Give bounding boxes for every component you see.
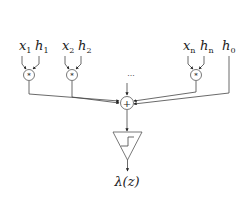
product-wire-1 — [29, 81, 119, 101]
hn-label: hn — [200, 38, 214, 55]
activation-node — [113, 132, 142, 160]
sum-symbol: + — [123, 98, 131, 109]
multiply-symbol-1: * — [27, 72, 31, 80]
multiply-symbol-n: * — [194, 72, 198, 80]
x1-wire — [22, 56, 26, 69]
neuron-diagram: x1 h1 * x2 h2 * ... xn hn * h0 + — [0, 0, 248, 218]
multiply-symbol-2: * — [70, 72, 74, 80]
product-wire-2 — [72, 81, 119, 103]
bias-wire — [134, 56, 229, 104]
ellipsis: ... — [127, 69, 135, 78]
output-label: λ(z) — [113, 174, 139, 189]
h1-label: h1 — [35, 38, 48, 55]
xn-wire — [188, 56, 193, 69]
h1-wire — [33, 56, 39, 69]
input-group-n: xn hn * — [134, 38, 214, 101]
x1-label: x1 — [19, 38, 31, 55]
hn-wire — [199, 56, 204, 69]
h2-label: h2 — [78, 38, 91, 55]
h0-label: h0 — [222, 38, 235, 55]
h2-wire — [76, 56, 81, 69]
x2-label: x2 — [62, 38, 74, 55]
x2-wire — [65, 56, 69, 69]
xn-label: xn — [183, 38, 196, 55]
input-group-2: x2 h2 * — [62, 38, 119, 103]
